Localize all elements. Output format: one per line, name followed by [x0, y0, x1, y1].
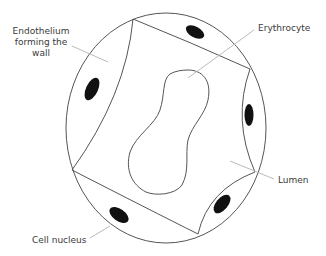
nucleus-bottom-left — [107, 204, 132, 226]
leader-nucleus — [90, 226, 110, 238]
capillary-outer-wall — [66, 13, 266, 243]
label-endothelium-line1: Endothelium — [10, 26, 72, 37]
label-lumen: Lumen — [278, 175, 309, 186]
label-erythrocyte: Erythrocyte — [258, 23, 310, 34]
label-endothelium: Endothelium forming the wall — [10, 26, 72, 59]
label-cell-nucleus: Cell nucleus — [32, 235, 86, 246]
nucleus-bottom-right — [210, 192, 233, 217]
nucleus-top — [184, 22, 207, 41]
leader-endothelium — [72, 46, 108, 62]
cell-nuclei — [81, 22, 253, 226]
nucleus-left — [81, 76, 102, 103]
erythrocyte-shape — [128, 70, 208, 194]
label-endothelium-line2: forming the — [10, 37, 72, 48]
nucleus-right — [245, 104, 254, 126]
label-endothelium-line3: wall — [10, 48, 72, 59]
